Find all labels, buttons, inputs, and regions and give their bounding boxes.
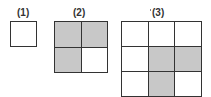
cell-r1-c1 [82, 48, 108, 73]
figure-1-grid [10, 21, 37, 47]
cell-r1-c0 [55, 48, 81, 73]
tick-mark [150, 9, 151, 11]
figure-2-label: (2) [73, 8, 85, 18]
cell-r0-c0 [122, 22, 148, 46]
cell-r0-c1 [149, 22, 175, 46]
cell-r0-c0 [55, 22, 81, 47]
cell-r2-c1 [149, 72, 175, 96]
cell-r0-c2 [175, 22, 201, 46]
cell-r1-c0 [122, 47, 148, 71]
cell-r1-c2 [175, 47, 201, 71]
figure-1-label: (1) [17, 8, 29, 18]
cell-r2-c0 [122, 72, 148, 96]
figure-3-grid [121, 21, 202, 97]
cell-r2-c2 [175, 72, 201, 96]
cell-r1-c1 [149, 47, 175, 71]
figure-2-grid [54, 21, 108, 73]
cell-r0-c0 [11, 22, 36, 46]
figure-3-label: (3) [152, 8, 164, 18]
cell-r0-c1 [82, 22, 108, 47]
